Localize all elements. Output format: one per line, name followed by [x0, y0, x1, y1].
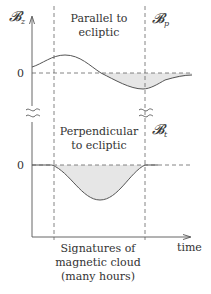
top-panel-title-line1: Parallel to — [71, 12, 128, 25]
bottom-shaded-region — [52, 165, 145, 200]
top-panel-title-line2: ecliptic — [79, 26, 120, 39]
caption-line3: (many hours) — [61, 270, 135, 283]
top-zero-label: 0 — [17, 67, 24, 80]
magnetic-cloud-diagram: 𝓑z Parallel to ecliptic 𝓑p 0 Perpendicul… — [0, 0, 211, 294]
bottom-panel-title-line2: to ecliptic — [71, 139, 126, 152]
bz-label: 𝓑z — [9, 8, 26, 26]
bp-label: 𝓑p — [152, 10, 169, 28]
top-shaded-region — [101, 73, 192, 89]
caption-line1: Signatures of — [61, 242, 137, 255]
bz-curve — [32, 55, 192, 89]
bottom-panel-title-line1: Perpendicular — [60, 125, 139, 138]
bottom-zero-label: 0 — [17, 159, 24, 172]
left-axis-break-icon — [26, 109, 40, 117]
caption-line2: magnetic cloud — [55, 256, 141, 269]
bt-label: 𝓑t — [152, 121, 168, 139]
right-axis-break-icon — [139, 109, 153, 117]
time-axis-label: time — [177, 241, 202, 254]
